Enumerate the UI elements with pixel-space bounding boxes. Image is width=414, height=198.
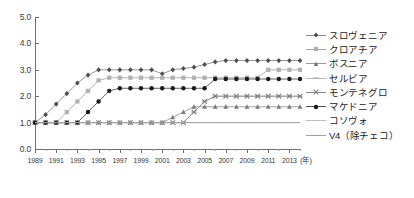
legend-marker-icon: [306, 29, 326, 41]
data-point-marker: [170, 115, 175, 120]
data-point-marker: [203, 76, 207, 80]
legend-marker-icon: [306, 72, 326, 84]
data-point-marker: [128, 86, 132, 90]
data-point-marker: [287, 68, 291, 72]
data-point-marker: [160, 71, 165, 76]
data-point-marker: [224, 58, 229, 63]
data-series-line: [35, 96, 300, 122]
data-point-marker: [160, 76, 164, 80]
legend-item-1[interactable]: クロアチア: [306, 42, 414, 56]
legend-line: [306, 120, 326, 121]
data-point-marker: [314, 61, 319, 66]
legend-item-label: ボスニア: [329, 58, 368, 69]
data-point-marker: [181, 86, 185, 90]
legend-item-2[interactable]: ボスニア: [306, 57, 414, 71]
data-point-marker: [86, 72, 91, 77]
legend-item-7[interactable]: V4（除チェコ）: [306, 128, 414, 142]
data-point-marker: [298, 68, 302, 72]
legend-item-label: コソヴォ: [329, 115, 368, 126]
legend-marker-icon: [306, 86, 326, 98]
data-point-marker: [266, 77, 270, 81]
data-point-marker: [298, 58, 303, 63]
legend-item-label: スロヴェニア: [329, 30, 387, 41]
data-point-marker: [287, 77, 291, 81]
data-series-line: [35, 96, 300, 122]
data-point-marker: [128, 76, 132, 80]
data-point-marker: [202, 86, 206, 90]
data-point-marker: [245, 77, 249, 81]
legend-item-label: モンテネグロ: [329, 87, 387, 98]
chart-figure: 0.01.02.03.04.05.0 198919911993199519971…: [0, 0, 414, 198]
data-point-marker: [213, 77, 217, 81]
data-point-marker: [277, 77, 281, 81]
data-point-marker: [277, 68, 281, 72]
data-point-marker: [118, 76, 122, 80]
data-point-marker: [314, 104, 318, 108]
data-point-marker: [234, 77, 238, 81]
data-point-marker: [234, 58, 239, 63]
data-series-3: [32, 96, 302, 124]
data-point-marker: [192, 86, 196, 90]
data-point-marker: [149, 86, 153, 90]
data-point-marker: [107, 67, 112, 72]
legend-item-6[interactable]: コソヴォ: [306, 114, 414, 128]
data-series-0: [33, 58, 303, 125]
data-point-marker: [96, 99, 100, 103]
data-point-marker: [202, 62, 207, 67]
data-point-marker: [314, 33, 319, 38]
data-point-marker: [139, 86, 143, 90]
data-point-marker: [75, 99, 79, 103]
data-point-marker: [298, 77, 302, 81]
data-point-marker: [107, 76, 111, 80]
data-point-marker: [171, 76, 175, 80]
data-point-marker: [96, 67, 101, 72]
legend-item-label: クロアチア: [329, 44, 378, 55]
data-series-line: [35, 61, 300, 123]
data-series-line: [35, 107, 300, 123]
data-point-marker: [86, 89, 90, 93]
legend-marker-icon: [306, 115, 326, 127]
data-point-marker: [255, 58, 260, 63]
data-point-marker: [245, 58, 250, 63]
data-point-marker: [86, 110, 90, 114]
data-point-marker: [266, 68, 270, 72]
data-point-marker: [213, 59, 218, 64]
legend-item-0[interactable]: スロヴェニア: [306, 28, 414, 42]
data-point-marker: [97, 78, 101, 82]
data-point-marker: [171, 67, 176, 72]
data-point-marker: [139, 76, 143, 80]
data-point-marker: [118, 86, 122, 90]
data-point-marker: [149, 67, 154, 72]
data-point-marker: [181, 66, 186, 71]
legend-item-4[interactable]: モンテネグロ: [306, 85, 414, 99]
data-point-marker: [277, 58, 282, 63]
data-point-marker: [107, 89, 111, 93]
data-point-marker: [181, 76, 185, 80]
data-point-marker: [65, 110, 69, 114]
legend-item-label: V4（除チェコ）: [329, 130, 398, 141]
data-point-marker: [150, 76, 154, 80]
data-point-marker: [314, 47, 318, 51]
data-point-marker: [314, 90, 319, 95]
legend-item-3[interactable]: セルビア: [306, 71, 414, 85]
legend-item-label: セルビア: [329, 73, 368, 84]
data-point-marker: [287, 58, 292, 63]
legend-marker-icon: [306, 58, 326, 70]
data-series-2: [33, 104, 303, 124]
data-point-marker: [255, 77, 259, 81]
data-point-marker: [266, 58, 271, 63]
data-point-marker: [139, 67, 144, 72]
data-point-marker: [171, 86, 175, 90]
legend-line: [306, 135, 326, 136]
data-point-marker: [224, 77, 228, 81]
legend-marker-icon: [306, 101, 326, 113]
legend-item-label: マケドニア: [329, 101, 378, 112]
data-point-marker: [181, 109, 186, 114]
legend-marker-icon: [306, 129, 326, 141]
data-point-marker: [160, 86, 164, 90]
chart-legend: スロヴェニアクロアチアボスニアセルビアモンテネグロマケドニアコソヴォV4（除チェ…: [306, 28, 414, 142]
data-point-marker: [192, 65, 197, 70]
data-point-marker: [118, 67, 123, 72]
data-point-marker: [192, 76, 196, 80]
legend-item-5[interactable]: マケドニア: [306, 99, 414, 113]
